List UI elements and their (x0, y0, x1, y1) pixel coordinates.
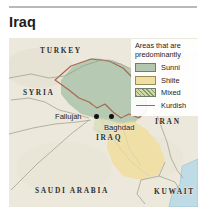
legend-title: Areas that are predominantly (135, 42, 195, 59)
legend-item-mixed: Mixed (135, 87, 195, 98)
map-label-kuwait: KUWAIT (154, 187, 195, 196)
legend-label-shiite: Shiite (161, 76, 180, 85)
map-label-iraq: IRAQ (96, 133, 122, 142)
map-label-iran: IRAN (155, 117, 181, 126)
map-label-fallujah: Fallujah (55, 112, 82, 121)
map-legend: Areas that are predominantly Sunni Shiit… (131, 39, 198, 116)
map-label-syria: SYRIA (23, 88, 55, 97)
sunni-swatch (135, 63, 156, 72)
page-title: Iraq (9, 13, 36, 31)
kurdish-line-swatch (135, 101, 156, 110)
map-label-turkey: TURKEY (40, 46, 82, 55)
map-label-baghdad: Baghdad (104, 123, 134, 132)
city-marker-baghdad (109, 114, 114, 119)
header-divider (9, 6, 197, 8)
legend-item-sunni: Sunni (135, 62, 195, 73)
city-marker-fallujah (94, 114, 99, 119)
legend-item-kurdish: Kurdish (135, 100, 195, 111)
shiite-swatch (135, 76, 156, 85)
legend-item-shiite: Shiite (135, 75, 195, 86)
legend-label-kurdish: Kurdish (161, 101, 186, 110)
mixed-swatch (135, 88, 156, 97)
legend-label-mixed: Mixed (161, 88, 181, 97)
map-figure: TURKEY SYRIA IRAN IRAQ SAUDI ARABIA KUWA… (9, 38, 198, 207)
legend-label-sunni: Sunni (161, 63, 180, 72)
map-label-saudi-arabia: SAUDI ARABIA (35, 186, 109, 195)
iraq-map-card: Iraq (0, 0, 206, 221)
